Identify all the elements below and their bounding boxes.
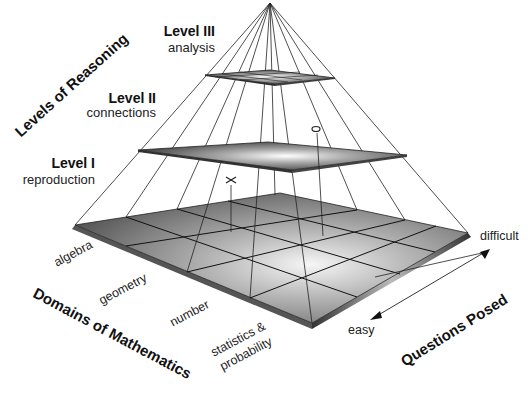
level-2-title: Level II bbox=[109, 91, 156, 105]
level-3-title: Level III bbox=[164, 24, 215, 38]
level-1-plane bbox=[138, 142, 407, 173]
level-2-subtitle: connections bbox=[87, 106, 156, 119]
level-1-subtitle: reproduction bbox=[23, 173, 95, 186]
questions-easy: easy bbox=[348, 324, 374, 337]
level-3-subtitle: analysis bbox=[168, 41, 215, 54]
level-1-title: Level I bbox=[51, 156, 95, 170]
questions-difficult: difficult bbox=[480, 230, 519, 243]
base-plane bbox=[72, 193, 471, 329]
level-3-plane bbox=[205, 70, 335, 86]
